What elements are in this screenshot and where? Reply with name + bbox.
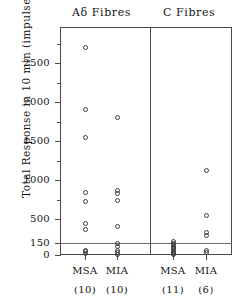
reference-line-150 [60,243,232,244]
data-point [115,252,120,257]
x-group-label-1: MIA [87,265,147,276]
data-point [83,45,88,50]
panel-title-ad-fibres: Aδ Fibres [72,6,131,19]
y-tick-label-1500: 1500 [14,135,50,146]
y-tick-label-150: 150 [14,237,50,248]
y-tick-mark-2500 [55,63,61,64]
y-tick-label-1000: 1000 [14,174,50,185]
data-point [115,191,120,196]
data-point [83,107,88,112]
y-tick-mark-500 [55,219,61,220]
data-point [115,198,120,203]
y-tick-label-2500: 2500 [14,57,50,68]
y-tick-mark-1500 [55,141,61,142]
x-tick-mark-mia-3 [206,255,207,260]
x-group-label-3: MIA [176,265,236,276]
data-point [83,190,88,195]
y-tick-mark-2000 [55,102,61,103]
x-group-count-1: (10) [87,284,147,295]
data-point [83,221,88,226]
data-point [115,224,120,229]
y-minor-tick [57,200,61,201]
y-tick-mark-150 [55,243,61,244]
y-tick-mark-1000 [55,180,61,181]
data-point [83,135,88,140]
x-group-count-3: (6) [176,284,236,295]
data-point [83,251,88,256]
data-point [83,227,88,232]
data-point [204,250,209,255]
data-point [171,252,176,257]
data-point [204,213,209,218]
y-minor-tick [57,161,61,162]
y-tick-label-0: 0 [14,249,50,260]
panel-title-c-fibres: C Fibres [163,6,215,19]
panel-divider [150,27,151,255]
data-point [115,115,120,120]
y-minor-tick [57,44,61,45]
y-tick-label-500: 500 [14,213,50,224]
y-minor-tick [57,122,61,123]
y-tick-label-2000: 2000 [14,96,50,107]
data-point [204,168,209,173]
y-tick-mark-0 [55,255,61,256]
y-minor-tick [57,83,61,84]
data-point [204,233,209,238]
data-point [83,199,88,204]
chart-root: Aδ Fibres C Fibres Total Response in 10 … [0,0,250,304]
